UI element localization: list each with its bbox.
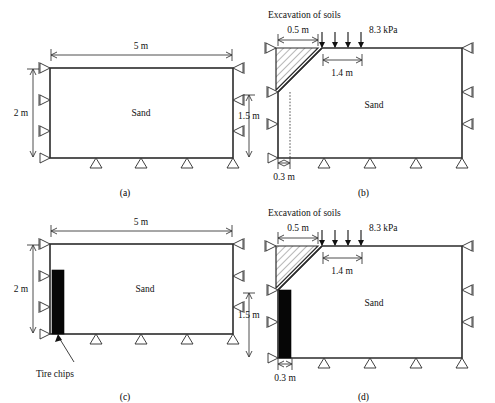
tire-chips-bar-d [279, 290, 291, 358]
panel-b: Excavation of soils 0.5 m 8.3 kPa 1.4 m … [232, 0, 495, 200]
dimension-height-b [243, 95, 255, 157]
height-label-c: 2 m [14, 284, 29, 294]
dimension-base-width-d [278, 358, 292, 370]
left-supports-c [39, 238, 50, 313]
right-supports-d [462, 240, 473, 328]
dimension-offset-d [323, 252, 362, 264]
panel-b-drawing: Excavation of soils 0.5 m 8.3 kPa 1.4 m … [232, 0, 495, 200]
offset-label-d: 1.4 m [331, 266, 353, 276]
bottom-supports-c [40, 329, 239, 344]
surcharge-label-d: 8.3 kPa [369, 223, 398, 233]
bottom-supports-d [268, 353, 468, 368]
dimension-height-a [27, 69, 39, 157]
soil-label-c: Sand [136, 284, 155, 294]
width-label-c: 5 m [134, 217, 149, 227]
panel-caption-b: (b) [358, 188, 369, 198]
panel-caption-d: (d) [358, 392, 369, 402]
panel-caption-a: (a) [120, 188, 131, 198]
soil-label-b: Sand [365, 100, 384, 110]
tire-chips-label-c: Tire chips [36, 369, 74, 379]
panel-caption-c: (c) [120, 392, 131, 402]
excavation-wedge-d [276, 246, 318, 288]
left-supports-a [39, 62, 50, 137]
panel-c-drawing: 5 m 2 m Tire chips Sand [0, 200, 250, 403]
top-width-label-b: 0.5 m [287, 25, 309, 35]
excavation-wedge-b [276, 48, 318, 90]
panel-a: 5 m 2 m Sand (a) [0, 0, 250, 200]
dimension-offset-b [323, 54, 362, 66]
surcharge-arrows-b [319, 32, 364, 48]
dimension-top-width-d [278, 232, 318, 244]
height-label-d: 1.5 m [238, 310, 260, 320]
height-label-b: 1.5 m [238, 111, 260, 121]
soil-label-a: Sand [132, 108, 151, 118]
dimension-top-width-b [278, 34, 318, 46]
excavation-label-b: Excavation of soils [268, 10, 341, 20]
base-width-label-b: 0.3 m [273, 172, 295, 182]
tire-chips-leader-c [55, 334, 74, 362]
base-width-label-d: 0.3 m [274, 373, 296, 383]
excavation-label-d: Excavation of soils [268, 208, 341, 218]
height-label-a: 2 m [14, 108, 29, 118]
offset-label-b: 1.4 m [331, 68, 353, 78]
dimension-height-d [243, 293, 255, 357]
right-supports-b [462, 42, 473, 130]
soil-label-d: Sand [365, 298, 384, 308]
panel-d-drawing: Excavation of soils 0.5 m 8.3 kPa 1.4 m … [232, 200, 495, 403]
bottom-supports-a [40, 153, 239, 168]
bottom-supports-b [268, 153, 468, 168]
panel-c: 5 m 2 m Tire chips Sand [0, 200, 250, 403]
surcharge-label-b: 8.3 kPa [369, 25, 398, 35]
surcharge-arrows-d [319, 230, 364, 246]
tire-chips-bar-c [52, 270, 64, 334]
panel-a-drawing: 5 m 2 m Sand [0, 0, 250, 200]
width-label-a: 5 m [134, 41, 149, 51]
top-width-label-d: 0.5 m [287, 223, 309, 233]
panel-d: Excavation of soils 0.5 m 8.3 kPa 1.4 m … [232, 200, 495, 403]
dimension-height-c [27, 245, 39, 333]
